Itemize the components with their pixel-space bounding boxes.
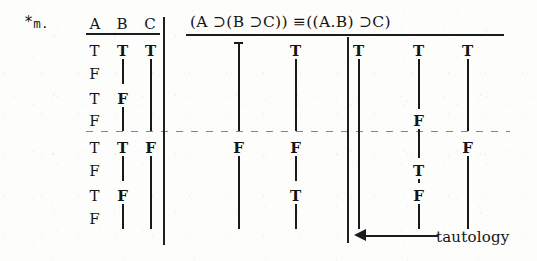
tautology-arrow [352,229,438,243]
truth-value-cell: F [88,212,101,227]
ditto-stroke [467,156,469,229]
truth-table-body: TFTFTFTFTFTFTFFTFTTTFTFTF [0,0,537,261]
ditto-stroke [122,156,124,181]
truth-value-cell: F [144,141,157,156]
ditto-stroke [418,179,420,183]
truth-value-cell: F [88,114,101,129]
truth-value-cell: F [412,114,425,129]
ditto-cap [234,42,243,44]
ditto-stroke [358,59,360,229]
truth-value-cell: T [289,189,302,204]
ditto-stroke [418,59,420,109]
arrow-shaft [364,235,438,237]
truth-value-cell: T [144,44,157,59]
ditto-stroke [295,204,297,229]
truth-value-cell: T [88,141,101,156]
truth-value-cell: T [461,44,474,59]
worksheet-page: *m. A B C (A ⊃(B ⊃C)) ≡((A.B) ⊃C) TFTFTF… [0,0,537,261]
truth-value-cell: T [116,141,129,156]
ditto-stroke [122,59,124,84]
ditto-stroke [418,129,420,158]
ditto-stroke [238,42,240,131]
truth-value-cell: F [116,92,129,107]
truth-value-cell: T [352,44,365,59]
ditto-stroke [467,59,469,131]
ditto-stroke [295,156,297,181]
truth-value-cell: F [289,141,302,156]
ditto-stroke [418,204,420,229]
truth-value-cell: T [289,44,302,59]
truth-value-cell: T [412,164,425,179]
truth-value-cell: T [88,44,101,59]
ditto-stroke [295,59,297,131]
truth-value-cell: T [88,92,101,107]
truth-value-cell: F [88,164,101,179]
truth-value-cell: T [412,44,425,59]
ditto-stroke [122,107,124,131]
arrow-head-icon [354,229,366,241]
truth-value-cell: T [116,44,129,59]
truth-value-cell: F [88,67,101,82]
ditto-stroke [238,156,240,229]
tautology-label: tautology [436,228,509,246]
ditto-stroke [122,204,124,229]
truth-value-cell: T [88,189,101,204]
ditto-stroke [150,59,152,131]
truth-value-cell: F [461,141,474,156]
truth-value-cell: F [116,189,129,204]
truth-value-cell: F [232,141,245,156]
truth-value-cell: F [412,189,425,204]
ditto-stroke [150,156,152,229]
